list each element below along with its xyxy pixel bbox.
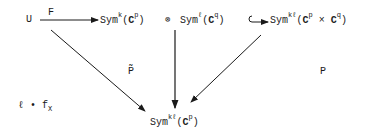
ell-f-text: ℓ • f [18, 100, 48, 111]
sym-base: Sym [100, 15, 118, 26]
times-symbol: × [319, 15, 325, 26]
label-f: F [48, 8, 54, 18]
arrow-p [191, 35, 261, 102]
paren: ) [193, 117, 199, 128]
subscript-x: X [48, 105, 52, 113]
sym-base: Sym [270, 15, 288, 26]
label-ell-fx: ℓ • fX [18, 101, 52, 111]
label-p-tilde: P̃ [128, 67, 134, 77]
node-u: U [26, 15, 32, 25]
tensor-symbol: ⊗ [165, 16, 170, 25]
node-sym-kl-product: Symkℓ(Cp × Cq) [270, 15, 347, 26]
label-p: P [320, 67, 326, 77]
node-sym-l: Symℓ(Cq) [180, 15, 224, 26]
paren: ) [341, 15, 347, 26]
node-sym-k: Symk(Cp) [100, 15, 144, 26]
sym-base: Sym [180, 15, 198, 26]
node-sym-kl-bottom: Symkℓ(Cp) [150, 117, 199, 128]
hook-arrow [249, 16, 268, 22]
paren: ) [218, 15, 224, 26]
paren: ) [138, 15, 144, 26]
sym-base: Sym [150, 117, 168, 128]
field-exp: p [308, 11, 312, 19]
